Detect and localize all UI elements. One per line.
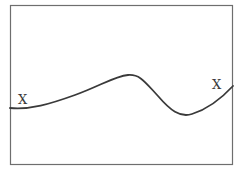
right-x-label: X <box>212 77 222 92</box>
wave-curve <box>10 75 233 115</box>
diagram-figure: X X <box>0 0 241 177</box>
left-x-label: X <box>18 92 28 107</box>
frame-border <box>11 6 233 165</box>
diagram-canvas: X X <box>0 0 241 177</box>
